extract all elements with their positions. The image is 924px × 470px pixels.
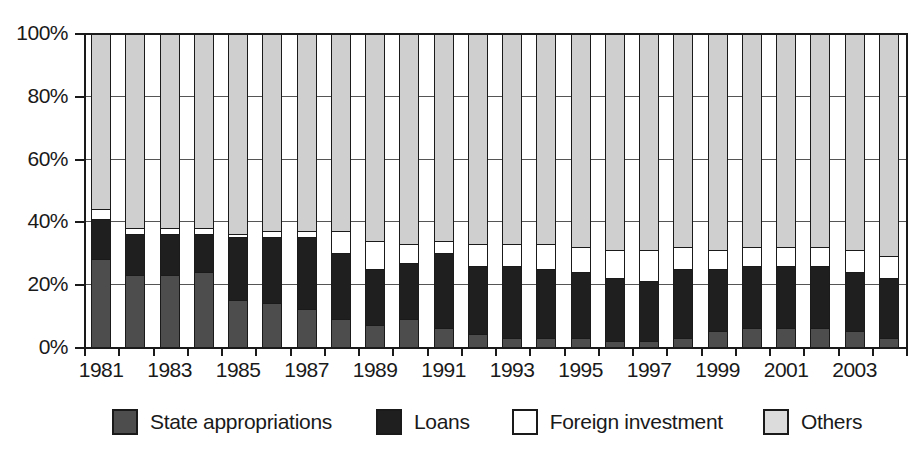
bar-segment-others <box>811 34 829 247</box>
x-tick-mark <box>529 347 531 356</box>
y-tick-mark <box>75 221 84 223</box>
x-tick-mark <box>324 347 326 356</box>
bar-column <box>290 33 324 347</box>
x-tick-mark <box>221 347 223 356</box>
bar-segment-loans <box>503 266 521 338</box>
bar-stack <box>125 33 145 347</box>
bar-stack <box>262 33 282 347</box>
x-tick-mark <box>598 347 600 356</box>
y-tick-label: 80% <box>27 84 68 108</box>
bar-segment-others <box>537 34 555 244</box>
bar-column <box>872 33 906 347</box>
x-tick-mark <box>358 347 360 356</box>
bar-segment-foreign-investment <box>674 247 692 269</box>
bar-stack <box>742 33 762 347</box>
x-tick-label: 2001 <box>764 358 809 382</box>
bar-segment-others <box>332 34 350 231</box>
bar-column <box>701 33 735 347</box>
bar-segment-loans <box>298 237 316 309</box>
bar-stack <box>468 33 488 347</box>
bar-segment-state-appropriations <box>537 338 555 347</box>
x-tick-mark <box>118 347 120 356</box>
bar-segment-loans <box>572 272 590 338</box>
bar-stack <box>879 33 899 347</box>
bar-column <box>427 33 461 347</box>
bar-column <box>221 33 255 347</box>
bar-segment-loans <box>229 237 247 300</box>
bar-stack <box>331 33 351 347</box>
bar-column <box>529 33 563 347</box>
bar-segment-loans <box>640 281 658 340</box>
bar-column <box>735 33 769 347</box>
bar-segment-loans <box>674 269 692 338</box>
x-tick-mark <box>666 347 668 356</box>
x-tick-mark <box>769 347 771 356</box>
bar-segment-foreign-investment <box>743 247 761 266</box>
bar-stack <box>776 33 796 347</box>
x-tick-label: 1997 <box>627 358 672 382</box>
bar-segment-state-appropriations <box>674 338 692 347</box>
bar-segment-loans <box>537 269 555 338</box>
x-tick-mark <box>872 347 874 356</box>
bar-segment-state-appropriations <box>709 331 727 347</box>
bar-segment-others <box>709 34 727 250</box>
dark-gray-swatch-icon <box>112 409 138 435</box>
legend-item-state-appropriations: State appropriations <box>112 409 332 435</box>
x-tick-label: 2003 <box>832 358 877 382</box>
bar-segment-others <box>674 34 692 247</box>
y-tick-mark <box>75 96 84 98</box>
chart-legend: State appropriations Loans Foreign inves… <box>84 402 904 442</box>
y-tick-mark <box>75 159 84 161</box>
bar-stack <box>365 33 385 347</box>
bar-segment-foreign-investment <box>503 244 521 266</box>
bar-segment-loans <box>606 278 624 341</box>
light-gray-swatch-icon <box>763 409 789 435</box>
bar-stack <box>194 33 214 347</box>
legend-label: Others <box>801 410 862 434</box>
bar-segment-foreign-investment <box>469 244 487 266</box>
bar-segment-others <box>298 34 316 231</box>
x-tick-mark <box>495 347 497 356</box>
bar-segment-loans <box>811 266 829 329</box>
bar-segment-foreign-investment <box>332 231 350 253</box>
bar-segment-loans <box>126 234 144 275</box>
bar-stack <box>810 33 830 347</box>
legend-label: Foreign investment <box>550 410 723 434</box>
bar-column <box>598 33 632 347</box>
bar-column <box>632 33 666 347</box>
y-tick-label: 0% <box>39 335 68 359</box>
bar-column <box>803 33 837 347</box>
bar-segment-others <box>880 34 898 256</box>
bar-segment-others <box>400 34 418 244</box>
bar-segment-foreign-investment <box>537 244 555 269</box>
bar-segment-foreign-investment <box>92 209 110 218</box>
bar-stack <box>228 33 248 347</box>
y-tick-mark <box>75 347 84 349</box>
bar-column <box>392 33 426 347</box>
y-tick-label: 40% <box>27 209 68 233</box>
bar-segment-others <box>503 34 521 244</box>
bar-segment-state-appropriations <box>435 328 453 347</box>
x-tick-mark <box>701 347 703 356</box>
bar-stack <box>399 33 419 347</box>
bar-segment-state-appropriations <box>298 309 316 347</box>
legend-label: Loans <box>414 410 470 434</box>
legend-item-foreign-investment: Foreign investment <box>512 409 723 435</box>
x-tick-mark <box>803 347 805 356</box>
bar-segment-state-appropriations <box>846 331 864 347</box>
bar-segment-state-appropriations <box>229 300 247 347</box>
x-tick-mark <box>187 347 189 356</box>
bar-column <box>838 33 872 347</box>
bar-segment-foreign-investment <box>572 247 590 272</box>
bar-segment-foreign-investment <box>709 250 727 269</box>
bar-column <box>187 33 221 347</box>
bar-segment-loans <box>777 266 795 329</box>
bar-segment-others <box>572 34 590 247</box>
bar-segment-foreign-investment <box>606 250 624 278</box>
bar-segment-foreign-investment <box>640 250 658 281</box>
bar-segment-loans <box>92 219 110 260</box>
bar-segment-state-appropriations <box>366 325 384 347</box>
bar-column <box>118 33 152 347</box>
bar-segment-loans <box>880 278 898 337</box>
x-tick-label: 1981 <box>79 358 124 382</box>
